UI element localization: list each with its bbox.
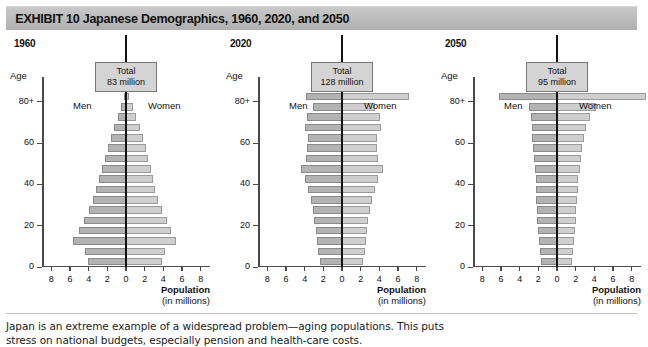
bar-women-70-74 <box>126 113 136 121</box>
bar-women-20-24 <box>342 217 368 225</box>
exhibit-title: EXHIBIT 10 Japanese Demographics, 1960, … <box>6 11 349 26</box>
x-axis-tick-label: 2 <box>532 274 544 284</box>
bar-women-5-9 <box>342 248 365 256</box>
chart-year-label: 2050 <box>445 38 466 49</box>
bar-men-45-49 <box>102 165 126 173</box>
x-axis-title: Population(in millions) <box>110 284 210 306</box>
bar-women-45-49 <box>557 165 580 173</box>
exhibit-header-bar: EXHIBIT 10 Japanese Demographics, 1960, … <box>6 6 637 30</box>
x-axis-tick-label: 8 <box>45 274 57 284</box>
x-axis-tick-label: 6 <box>176 274 188 284</box>
bar-men-35-39 <box>96 186 126 194</box>
x-axis-tick <box>200 267 201 271</box>
y-axis-tick <box>468 225 473 226</box>
total-label: Total <box>96 66 156 77</box>
bar-women-35-39 <box>126 186 155 194</box>
pyramid-chart-2020: 2020Age80+6040200864202468Total128 milli… <box>218 34 433 302</box>
caption-divider <box>6 313 637 314</box>
y-axis-tick-label: 0 <box>8 262 34 271</box>
legend-women-label: Women <box>148 100 181 111</box>
x-axis-title-line-1: Population <box>110 284 210 295</box>
y-axis-tick <box>468 101 473 102</box>
y-axis-title: Age <box>441 70 458 81</box>
bar-women-0-4 <box>126 258 162 266</box>
bar-men-0-4 <box>541 258 557 266</box>
total-label: Total <box>527 66 587 77</box>
bar-men-40-44 <box>536 175 557 183</box>
x-axis-tick <box>482 267 483 271</box>
x-axis-tick <box>107 267 108 271</box>
bar-women-20-24 <box>557 217 576 225</box>
x-axis-title-line-1: Population <box>326 284 426 295</box>
x-axis-tick-label: 4 <box>83 274 95 284</box>
bar-men-45-49 <box>535 165 557 173</box>
x-axis-tick-label: 8 <box>626 274 638 284</box>
bar-women-35-39 <box>557 186 578 194</box>
y-axis-tick-label: 40 <box>224 179 250 188</box>
x-axis-tick-label: 0 <box>551 274 563 284</box>
x-axis-tick <box>51 267 52 271</box>
x-axis-tick <box>285 267 286 271</box>
y-axis-tick-label: 0 <box>439 262 465 271</box>
plot-area: 80+6040200864202468 <box>42 77 210 267</box>
bar-women-30-34 <box>126 196 158 204</box>
x-axis-tick <box>323 267 324 271</box>
bar-women-60-64 <box>557 134 584 142</box>
x-axis-tick <box>69 267 70 271</box>
legend-men-label: Men <box>73 100 91 111</box>
bar-men-40-44 <box>305 175 342 183</box>
caption-line-2: stress on national budgets, especially p… <box>6 334 566 347</box>
bar-men-60-64 <box>111 134 126 142</box>
x-axis-title-line-2: (in millions) <box>541 295 641 306</box>
bar-men-60-64 <box>308 134 342 142</box>
bar-men-50-54 <box>306 155 342 163</box>
bar-men-70-74 <box>531 113 557 121</box>
bar-women-40-44 <box>342 175 378 183</box>
y-axis-tick-label: 80+ <box>8 97 34 106</box>
bar-men-40-44 <box>99 175 126 183</box>
bar-women-65-69 <box>342 124 381 132</box>
bar-men-0-4 <box>88 258 126 266</box>
bar-men-55-59 <box>108 144 126 152</box>
x-axis-tick <box>125 267 126 271</box>
plot-area: 80+6040200864202468 <box>473 77 641 267</box>
y-axis-title: Age <box>226 70 243 81</box>
bar-women-15-19 <box>126 227 171 235</box>
bar-women-65-69 <box>126 124 140 132</box>
legend-women-label: Women <box>579 100 612 111</box>
bar-men-10-14 <box>539 237 557 245</box>
bar-men-25-29 <box>313 206 342 214</box>
x-axis-tick <box>163 267 164 271</box>
x-axis-tick <box>575 267 576 271</box>
y-axis-tick <box>37 267 42 268</box>
bar-men-5-9 <box>540 248 557 256</box>
x-axis-tick-label: 4 <box>299 274 311 284</box>
x-axis-tick-label: 6 <box>607 274 619 284</box>
total-label: Total <box>312 66 372 77</box>
x-axis-tick-label: 8 <box>261 274 273 284</box>
y-axis-title: Age <box>10 70 27 81</box>
x-axis-tick <box>144 267 145 271</box>
plot-area: 80+6040200864202468 <box>258 77 426 267</box>
y-axis-tick-label: 0 <box>224 262 250 271</box>
x-axis-tick-label: 8 <box>195 274 207 284</box>
x-axis-tick <box>379 267 380 271</box>
x-axis-tick-label: 0 <box>120 274 132 284</box>
bar-men-0-4 <box>320 258 342 266</box>
x-axis-tick-label: 2 <box>317 274 329 284</box>
bar-women-15-19 <box>342 227 367 235</box>
total-population-box: Total95 million <box>526 62 588 92</box>
legend-men-label: Men <box>289 100 307 111</box>
bar-women-5-9 <box>557 248 573 256</box>
bar-men-20-24 <box>314 217 342 225</box>
y-axis-tick-label: 60 <box>439 138 465 147</box>
x-axis-tick-label: 4 <box>373 274 385 284</box>
x-axis-tick-label: 2 <box>355 274 367 284</box>
bar-men-65-69 <box>305 124 342 132</box>
bar-women-15-19 <box>557 227 575 235</box>
y-axis-tick-label: 20 <box>224 221 250 230</box>
y-axis-tick-label: 40 <box>439 179 465 188</box>
x-axis-tick <box>397 267 398 271</box>
bar-men-10-14 <box>73 237 126 245</box>
legend-women-label: Women <box>364 100 397 111</box>
